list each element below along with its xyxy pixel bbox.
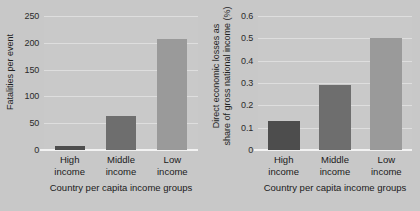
y-axis-label-left: Fatalities per event xyxy=(5,34,16,110)
x-tick-high-income: High income xyxy=(44,154,95,177)
plot-area-right: Direct economic losses as share of gross… xyxy=(258,16,412,150)
x-tick-high-income: High income xyxy=(258,154,309,177)
x-axis-title-left: Country per capita income groups xyxy=(44,182,198,193)
y-tick-label: 0.5 xyxy=(241,33,253,43)
y-tick-label: 0.6 xyxy=(241,11,253,21)
x-tick-middle-income: Middle income xyxy=(96,154,147,177)
plot-area-left: Fatalities per event 0 50 100 150 200 25… xyxy=(44,16,198,150)
bar-high-income xyxy=(55,146,85,150)
y-tick-label: 0.1 xyxy=(241,123,253,133)
bar-low-income xyxy=(157,39,187,150)
bar-middle-income xyxy=(319,85,351,150)
panel-direct-economic-losses: Direct economic losses as share of gross… xyxy=(210,0,420,211)
y-tick-label: 150 xyxy=(25,65,39,75)
y-tick-label: 100 xyxy=(25,91,39,101)
y-tick-label: 0 xyxy=(248,145,253,155)
x-tick-low-income: Low income xyxy=(361,154,412,177)
bar-low-income xyxy=(370,38,402,150)
x-axis-title-right: Country per capita income groups xyxy=(258,182,412,193)
bar-slot-low-income xyxy=(147,16,198,150)
bar-slot-high-income xyxy=(258,16,309,150)
y-axis-label-right: Direct economic losses as share of gross… xyxy=(211,7,233,146)
bar-group-right xyxy=(258,16,412,150)
y-tick-label: 0.3 xyxy=(241,78,253,88)
bar-high-income xyxy=(268,121,300,150)
y-tick-label: 200 xyxy=(25,38,39,48)
bar-group-left xyxy=(44,16,198,150)
panel-fatalities-per-event: Fatalities per event 0 50 100 150 200 25… xyxy=(0,0,210,211)
bar-slot-middle-income xyxy=(310,16,361,150)
bar-middle-income xyxy=(106,116,136,150)
x-tick-labels-left: High income Middle income Low income xyxy=(44,154,198,177)
y-tick-label: 0 xyxy=(34,145,39,155)
x-tick-low-income: Low income xyxy=(147,154,198,177)
y-tick-label: 0.4 xyxy=(241,56,253,66)
y-tick-label: 50 xyxy=(29,118,39,128)
x-tick-labels-right: High income Middle income Low income xyxy=(258,154,412,177)
bar-slot-middle-income xyxy=(96,16,147,150)
bar-slot-low-income xyxy=(361,16,412,150)
y-tick-label: 0.2 xyxy=(241,100,253,110)
bar-slot-high-income xyxy=(44,16,95,150)
y-tick-label: 250 xyxy=(25,11,39,21)
figure-two-panel-bar-chart: Fatalities per event 0 50 100 150 200 25… xyxy=(0,0,420,211)
x-tick-middle-income: Middle income xyxy=(310,154,361,177)
